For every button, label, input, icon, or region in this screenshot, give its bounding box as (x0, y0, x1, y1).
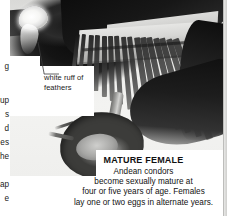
left-column-text-fragment: d (4, 124, 9, 133)
page-gutter-rule (223, 0, 224, 216)
caption-body-line4: lay one or two eggs in alternate years. (60, 198, 227, 208)
caption-block: MATURE FEMALE Andean condors become sexu… (60, 155, 227, 208)
caption-body-line2: become sexually mature at (60, 177, 227, 187)
left-column-text-fragment: es (0, 138, 9, 147)
left-column-text-fragment: ap (0, 180, 9, 189)
page-root: white ruff of feathers MATURE FEMALE And… (0, 0, 227, 216)
annotation-white-ruff: white ruff of feathers (44, 73, 96, 92)
caption-title: MATURE FEMALE (60, 155, 227, 166)
left-column-text-fragment: s (5, 110, 9, 119)
annotation-white-ruff-line2: feathers (44, 83, 96, 93)
condor-primary-feather (102, 36, 107, 97)
left-column-text-fragment: g (4, 62, 9, 71)
annotation-white-ruff-line1: white ruff of (44, 73, 96, 83)
left-column-text-fragment: e (4, 194, 9, 203)
left-text-column-clipped: gupsdesheape (0, 0, 10, 216)
caption-body-line3: four or five years of age. Females (60, 187, 227, 197)
caption-body-line1: Andean condors (60, 167, 227, 177)
left-column-text-fragment: he (0, 152, 9, 161)
left-column-text-fragment: up (0, 96, 9, 105)
